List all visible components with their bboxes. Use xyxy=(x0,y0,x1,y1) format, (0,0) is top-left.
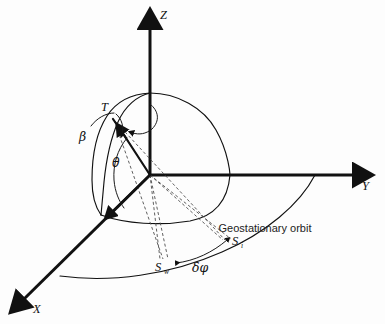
vector-ground-track xyxy=(112,175,150,212)
angle-label-theta: θ xyxy=(112,155,120,170)
earth-limb-meridian xyxy=(101,93,150,215)
incidence-curved-arrow xyxy=(133,104,157,134)
angle-theta: θ xyxy=(112,138,127,208)
axis-y: Y xyxy=(150,175,371,193)
svg-text:S: S xyxy=(232,234,239,248)
axis-label-y: Y xyxy=(362,179,371,193)
point-subscript-Sw: w xyxy=(164,267,169,276)
point-label-Si: S i xyxy=(232,234,243,250)
geostationary-orbit-label: Geostationary orbit xyxy=(219,222,312,234)
point-label-Sw: S w xyxy=(155,260,169,276)
diagram-canvas: Z Y X xyxy=(0,0,385,324)
point-subscript-Si: i xyxy=(241,241,243,250)
angle-label-beta: β xyxy=(78,129,86,144)
earth-limb-outline xyxy=(92,93,230,215)
svg-text:T: T xyxy=(101,100,109,114)
svg-text:S: S xyxy=(155,260,162,274)
earth-equator-arc xyxy=(101,175,230,224)
axis-x: X xyxy=(23,175,150,316)
angle-label-delta-phi: δφ xyxy=(192,260,209,275)
angle-delta-phi: δφ xyxy=(176,240,227,275)
geostationary-orbit-diagram: Z Y X xyxy=(0,0,385,324)
axis-z: Z xyxy=(150,8,168,175)
projection-lines xyxy=(114,120,231,259)
axis-label-x: X xyxy=(32,302,42,316)
axis-label-z: Z xyxy=(160,8,168,22)
point-label-T: T xyxy=(101,100,109,114)
svg-text:Geostationary orbit: Geostationary orbit xyxy=(219,222,312,234)
